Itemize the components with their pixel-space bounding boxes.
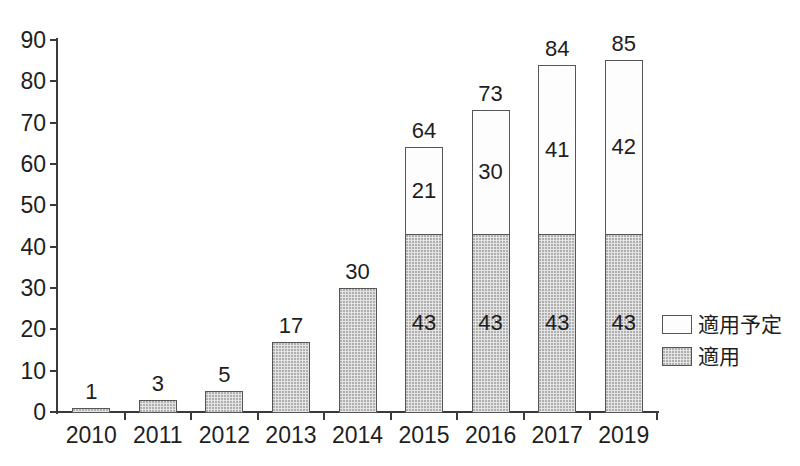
bar-total-label-2015: 64 (391, 118, 457, 144)
x-tick (523, 412, 525, 420)
x-axis-label-2012: 2012 (191, 421, 258, 449)
bar-segment-applied-2013 (272, 342, 310, 413)
bar-total-label-2012: 5 (191, 362, 257, 388)
legend-item-applied: 適用 (662, 346, 782, 367)
bar-total-label-2019: 85 (591, 31, 657, 57)
y-tick-label: 70 (0, 109, 46, 137)
bar-total-label-2017: 84 (524, 36, 590, 62)
bar-segment-label-planned-2019: 42 (591, 134, 657, 160)
bar-segment-label-applied-2015: 43 (391, 310, 457, 336)
y-tick (50, 287, 58, 289)
x-tick (656, 412, 658, 420)
x-tick (323, 412, 325, 420)
legend: 適用予定 適用 (662, 314, 782, 378)
x-axis-label-2013: 2013 (258, 421, 325, 449)
bar-total-label-2014: 30 (325, 259, 391, 285)
bar-segment-applied-2011 (139, 400, 177, 413)
bar-segment-applied-2014 (339, 288, 377, 413)
bar-segment-label-planned-2015: 21 (391, 178, 457, 204)
y-tick (50, 39, 58, 41)
y-tick (50, 80, 58, 82)
bar-segment-label-applied-2017: 43 (524, 310, 590, 336)
x-axis-label-2011: 2011 (125, 421, 192, 449)
x-tick (390, 412, 392, 420)
bar-segment-label-applied-2016: 43 (458, 310, 524, 336)
x-axis-label-2019: 2019 (590, 421, 657, 449)
bar-segment-label-applied-2019: 43 (591, 310, 657, 336)
y-tick (50, 370, 58, 372)
y-axis-line (56, 38, 58, 414)
legend-label-planned: 適用予定 (698, 314, 782, 335)
y-tick (50, 122, 58, 124)
x-tick (589, 412, 591, 420)
y-tick-label: 30 (0, 274, 46, 302)
y-tick-label: 50 (0, 191, 46, 219)
y-tick-label: 20 (0, 315, 46, 343)
x-axis-label-2014: 2014 (324, 421, 391, 449)
x-tick (190, 412, 192, 420)
bar-segment-applied-2010 (72, 408, 110, 413)
x-axis-label-2015: 2015 (391, 421, 458, 449)
x-tick (456, 412, 458, 420)
y-tick-label: 0 (0, 398, 46, 426)
y-tick (50, 163, 58, 165)
x-tick (124, 412, 126, 420)
x-axis-label-2010: 2010 (58, 421, 125, 449)
bar-segment-label-planned-2017: 41 (524, 137, 590, 163)
legend-swatch-applied (662, 347, 692, 366)
y-tick (50, 246, 58, 248)
legend-item-planned: 適用予定 (662, 314, 782, 335)
y-tick (50, 328, 58, 330)
y-tick-label: 10 (0, 357, 46, 385)
bar-segment-label-planned-2016: 30 (458, 159, 524, 185)
bar-total-label-2016: 73 (458, 81, 524, 107)
x-tick (257, 412, 259, 420)
y-tick (50, 411, 58, 413)
x-axis-label-2016: 2016 (457, 421, 524, 449)
stacked-bar-chart: 0102030405060708090 20102011201220132014… (0, 0, 800, 466)
y-tick-label: 90 (0, 26, 46, 54)
y-tick-label: 40 (0, 233, 46, 261)
y-tick (50, 204, 58, 206)
bar-segment-applied-2012 (205, 391, 243, 413)
y-tick-label: 60 (0, 150, 46, 178)
legend-swatch-planned (662, 315, 692, 334)
bar-total-label-2011: 3 (125, 371, 191, 397)
x-axis-label-2017: 2017 (524, 421, 591, 449)
bar-total-label-2010: 1 (58, 379, 124, 405)
legend-label-applied: 適用 (698, 346, 740, 367)
y-tick-label: 80 (0, 67, 46, 95)
bar-total-label-2013: 17 (258, 313, 324, 339)
